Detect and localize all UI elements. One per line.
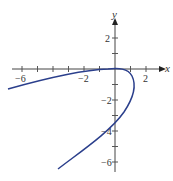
x-tick-label: 2 <box>143 73 148 84</box>
y-axis-label: y <box>111 8 117 20</box>
y-tick-label: −2 <box>101 95 112 106</box>
y-tick-label: 2 <box>105 33 110 44</box>
x-tick-label: −2 <box>78 73 89 84</box>
graph: −6 −2 2 2 −2 −4 −6 x y <box>0 0 173 181</box>
x-tick-label: −6 <box>15 73 26 84</box>
x-axis-label: x <box>164 62 170 74</box>
y-tick-label: −6 <box>101 157 112 168</box>
